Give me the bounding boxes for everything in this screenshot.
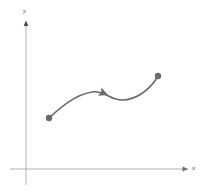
- y-axis-arrowhead: [24, 21, 29, 27]
- x-axis-arrowhead: [183, 167, 189, 172]
- directed-path-group: [46, 73, 161, 121]
- x-axis-label: x: [192, 165, 195, 172]
- plot-svg: [0, 0, 206, 192]
- end-point: [155, 73, 161, 79]
- figure-canvas: y x: [0, 0, 206, 192]
- axes-group: [10, 21, 188, 186]
- curve-path: [49, 76, 158, 118]
- start-point: [46, 115, 52, 121]
- y-axis-label: y: [23, 8, 26, 15]
